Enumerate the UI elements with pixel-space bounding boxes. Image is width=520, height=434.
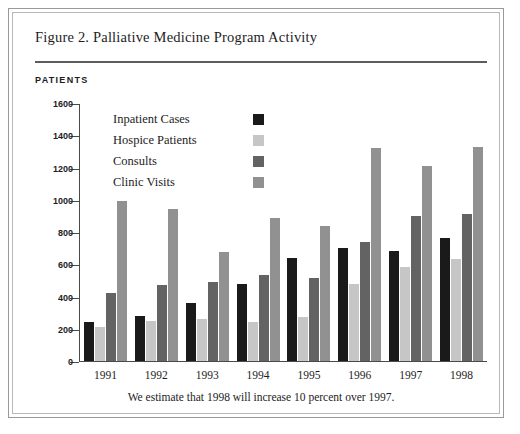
bar [320, 226, 330, 361]
bar [248, 322, 258, 361]
bar-group: 1998 [436, 104, 487, 361]
y-axis-tick-label: 1400 [53, 131, 73, 141]
bar [237, 284, 247, 361]
bar [219, 252, 229, 361]
bar [259, 275, 269, 361]
bar [360, 242, 370, 361]
legend-color-swatch [253, 156, 264, 167]
legend-item-label: Consults [113, 154, 253, 169]
x-axis-tick-label: 1994 [233, 369, 284, 381]
y-axis-tick-label: 0 [68, 357, 73, 367]
bar [135, 316, 145, 361]
bar [400, 267, 410, 361]
x-axis-tick-label: 1992 [131, 369, 182, 381]
figure-caption: We estimate that 1998 will increase 10 p… [35, 391, 487, 403]
bar [309, 278, 319, 361]
legend-item-label: Inpatient Cases [113, 112, 253, 127]
bar [371, 148, 381, 361]
bar [462, 214, 472, 361]
legend-color-swatch [253, 135, 264, 146]
legend-item: Clinic Visits [113, 172, 264, 193]
bar [440, 238, 450, 361]
bar [389, 251, 399, 361]
x-axis-tick-label: 1996 [334, 369, 385, 381]
x-axis-line [79, 361, 487, 362]
figure-frame: Figure 2. Palliative Medicine Program Ac… [8, 8, 504, 418]
bar [451, 259, 461, 361]
bar-group: 1996 [334, 104, 385, 361]
chart-legend: Inpatient CasesHospice PatientsConsultsC… [113, 109, 264, 193]
page-title: Figure 2. Palliative Medicine Program Ac… [35, 29, 317, 46]
legend-item: Consults [113, 151, 264, 172]
bar [186, 303, 196, 361]
bar [473, 147, 483, 361]
y-axis-tick-label: 400 [58, 293, 73, 303]
y-axis-tick-label: 600 [58, 260, 73, 270]
bar [95, 327, 105, 361]
bar-group: 1997 [385, 104, 436, 361]
bar [349, 284, 359, 361]
x-axis-tick-label: 1995 [284, 369, 335, 381]
bar [168, 209, 178, 361]
legend-item-label: Hospice Patients [113, 133, 253, 148]
x-axis-tick-label: 1997 [385, 369, 436, 381]
bar [422, 166, 432, 361]
bar [411, 216, 421, 361]
y-axis-tick-label: 1200 [53, 164, 73, 174]
bar [106, 293, 116, 361]
title-divider [35, 61, 487, 63]
bar [270, 218, 280, 362]
y-axis-title: PATIENTS [35, 75, 89, 85]
y-axis-tick-label: 1600 [53, 99, 73, 109]
bar [197, 319, 207, 361]
bar-group: 1995 [284, 104, 335, 361]
y-axis-tick-label: 200 [58, 325, 73, 335]
legend-item: Hospice Patients [113, 130, 264, 151]
x-axis-tick-label: 1991 [80, 369, 131, 381]
y-axis-tick-label: 1000 [53, 196, 73, 206]
bar [298, 317, 308, 361]
bar [338, 248, 348, 361]
legend-color-swatch [253, 177, 264, 188]
bar [157, 285, 167, 361]
legend-item-label: Clinic Visits [113, 175, 253, 190]
bar [84, 322, 94, 361]
legend-item: Inpatient Cases [113, 109, 264, 130]
x-axis-tick-label: 1998 [436, 369, 487, 381]
bar [117, 201, 127, 361]
bar [287, 258, 297, 361]
y-axis-tick-label: 800 [58, 228, 73, 238]
bar [208, 282, 218, 361]
legend-color-swatch [253, 114, 264, 125]
x-axis-tick-label: 1993 [182, 369, 233, 381]
bar [146, 321, 156, 361]
